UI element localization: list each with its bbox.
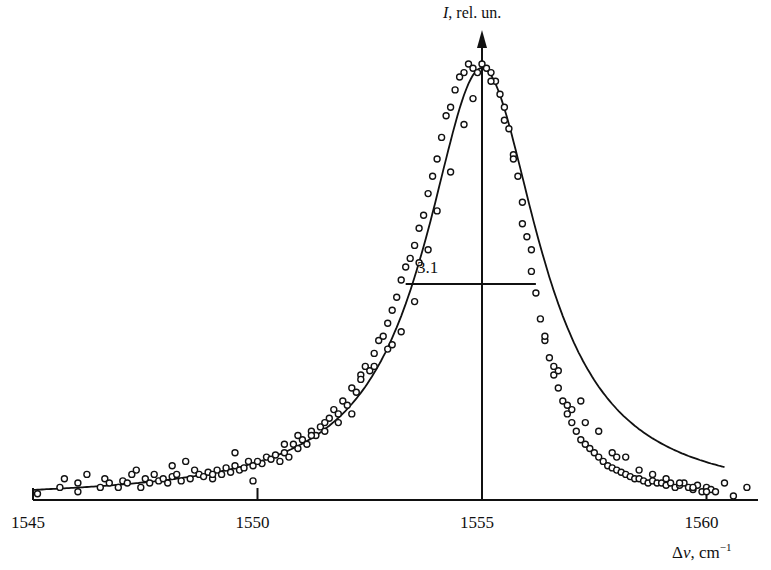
data-point-marker (407, 255, 413, 261)
data-point-marker (403, 264, 409, 270)
data-point-marker (165, 480, 171, 486)
data-point-marker (308, 433, 314, 439)
data-point-marker (385, 320, 391, 326)
data-point-marker (84, 471, 90, 477)
data-point-marker (569, 420, 575, 426)
data-point-marker (528, 268, 534, 274)
data-point-marker (394, 294, 400, 300)
data-point-marker (151, 471, 157, 477)
data-point-marker (578, 398, 584, 404)
data-point-marker (241, 465, 247, 471)
x-axis-unit-exponent: −1 (720, 541, 732, 553)
chart-plot-area (0, 0, 771, 570)
data-point-marker (35, 491, 41, 497)
data-point-marker (650, 471, 656, 477)
data-point-marker (470, 96, 476, 102)
data-point-marker (555, 385, 561, 391)
data-point-marker (273, 452, 279, 458)
data-point-marker (475, 70, 481, 76)
data-point-marker (322, 420, 328, 426)
data-point-marker (255, 458, 261, 464)
data-point-marker (169, 463, 175, 469)
x-axis-comma: , (690, 543, 699, 562)
y-axis-arrow-icon (477, 30, 487, 48)
x-axis-unit: cm (699, 543, 720, 562)
data-point-marker (371, 350, 377, 356)
data-point-marker (277, 458, 283, 464)
data-point-marker (677, 480, 683, 486)
data-point-marker (147, 480, 153, 486)
data-point-marker (61, 476, 67, 482)
data-point-marker (75, 480, 81, 486)
data-point-marker (519, 221, 525, 227)
data-point-marker (443, 113, 449, 119)
data-point-marker (506, 126, 512, 132)
fwhm-label: 3.1 (417, 258, 438, 278)
data-point-marker (344, 402, 350, 408)
data-point-marker (335, 420, 341, 426)
data-point-marker (416, 225, 422, 231)
data-point-marker (582, 420, 588, 426)
data-point-marker (380, 333, 386, 339)
data-point-marker (623, 454, 629, 460)
data-point-marker (722, 480, 728, 486)
data-point-marker (690, 484, 696, 490)
data-point-marker (542, 333, 548, 339)
data-point-marker (349, 411, 355, 417)
data-point-marker (75, 489, 81, 495)
data-point-marker (448, 169, 454, 175)
data-point-marker (174, 471, 180, 477)
data-point-marker (232, 450, 238, 456)
x-tick-label: 1555 (460, 513, 494, 533)
data-point-marker (281, 441, 287, 447)
data-point-marker (412, 242, 418, 248)
data-point-marker (133, 467, 139, 473)
data-point-marker (389, 307, 395, 313)
data-point-marker (461, 122, 467, 128)
data-point-marker (528, 247, 534, 253)
data-point-marker (187, 476, 193, 482)
data-point-marker (286, 454, 292, 460)
data-point-marker (636, 467, 642, 473)
data-point-marker (510, 156, 516, 162)
y-axis-unit: , rel. un. (448, 4, 501, 21)
data-point-marker (425, 191, 431, 197)
data-point-marker (425, 247, 431, 253)
data-point-marker (178, 478, 184, 484)
data-points (35, 61, 750, 499)
data-point-marker (524, 234, 530, 240)
data-point-marker (219, 471, 225, 477)
data-point-marker (210, 471, 216, 477)
y-axis-title: I, rel. un. (443, 4, 501, 22)
data-point-marker (533, 290, 539, 296)
data-point-marker (515, 173, 521, 179)
data-point-marker (434, 208, 440, 214)
x-tick-label: 1545 (11, 513, 45, 533)
data-point-marker (138, 484, 144, 490)
data-point-marker (358, 376, 364, 382)
data-point-marker (430, 173, 436, 179)
data-point-marker (322, 428, 328, 434)
data-point-marker (421, 212, 427, 218)
data-point-marker (537, 316, 543, 322)
data-point-marker (573, 428, 579, 434)
data-point-marker (501, 104, 507, 110)
data-point-marker (97, 484, 103, 490)
data-point-marker (398, 329, 404, 335)
x-axis-delta-symbol: Δ (672, 543, 683, 562)
data-point-marker (398, 277, 404, 283)
fit-curve-path (33, 68, 725, 490)
data-point-marker (434, 156, 440, 162)
data-point-marker (228, 469, 234, 475)
data-point-marker (546, 355, 552, 361)
data-point-marker (304, 441, 310, 447)
data-point-marker (412, 299, 418, 305)
data-point-marker (183, 458, 189, 464)
data-point-marker (452, 87, 458, 93)
x-axis-title: Δν, cm−1 (672, 541, 731, 563)
data-point-marker (519, 199, 525, 205)
data-point-marker (704, 489, 710, 495)
data-point-marker (57, 484, 63, 490)
data-point-marker (371, 363, 377, 369)
data-point-marker (596, 428, 602, 434)
